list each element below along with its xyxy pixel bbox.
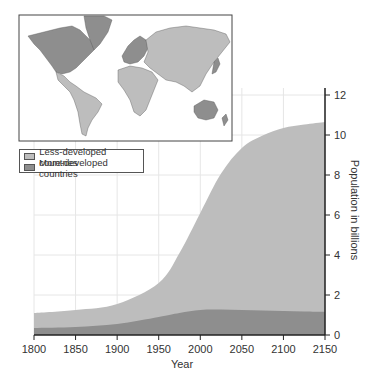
- x-tick-label: 2100: [271, 343, 295, 355]
- legend: Less-developed countries More-developed …: [19, 149, 144, 173]
- y-tick-label: 4: [334, 249, 340, 261]
- y-tick-label: 0: [334, 329, 340, 341]
- legend-item-more-developed: More-developed countries: [24, 162, 139, 173]
- x-tick-label: 1800: [22, 343, 46, 355]
- x-tick-label: 1900: [105, 343, 129, 355]
- legend-swatch-less: [24, 153, 35, 160]
- y-tick-label: 8: [334, 169, 340, 181]
- x-tick-label: 2050: [230, 343, 254, 355]
- x-tick-label: 2000: [188, 343, 212, 355]
- y-axis-title: Population in billions: [349, 160, 361, 261]
- x-tick-label: 2150: [313, 343, 337, 355]
- x-tick-label: 1850: [63, 343, 87, 355]
- x-tick-label: 1950: [146, 343, 170, 355]
- y-tick-label: 6: [334, 209, 340, 221]
- legend-swatch-more: [24, 164, 35, 171]
- y-axis-ticks: 024681012: [325, 89, 346, 341]
- legend-label: More-developed countries: [39, 157, 139, 179]
- world-map-inset: [19, 15, 232, 141]
- x-axis-ticks: 18001850190019502000205021002150: [22, 335, 337, 355]
- y-tick-label: 10: [334, 129, 346, 141]
- y-tick-label: 2: [334, 289, 340, 301]
- y-tick-label: 12: [334, 89, 346, 101]
- population-chart: 18001850190019502000205021002150 0246810…: [0, 0, 378, 385]
- x-axis-title: Year: [171, 358, 194, 370]
